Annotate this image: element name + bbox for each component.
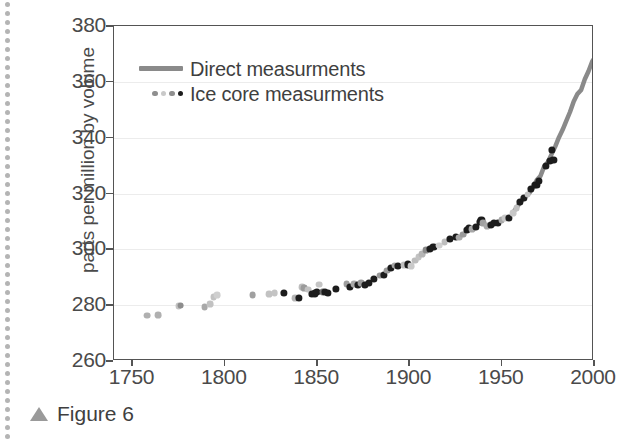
x-tick-label-1800: 1800 bbox=[179, 366, 269, 388]
y-tick-label-300: 300 bbox=[50, 237, 106, 258]
y-tick-label-360: 360 bbox=[50, 70, 106, 91]
triangle-up-icon bbox=[30, 407, 48, 421]
chart-legend: Direct measurments Ice core measurments bbox=[139, 56, 439, 106]
x-tick-mark-1950 bbox=[501, 360, 503, 366]
y-tick-mark-320 bbox=[106, 193, 113, 195]
legend-label-ice-core: Ice core measurments bbox=[190, 84, 384, 104]
figure-caption: Figure 6 bbox=[30, 403, 134, 424]
legend-dot-2 bbox=[169, 91, 175, 97]
x-tick-label-1850: 1850 bbox=[271, 366, 361, 388]
x-tick-mark-1900 bbox=[408, 360, 410, 366]
legend-label-direct: Direct measurments bbox=[190, 59, 365, 79]
y-tick-label-340: 340 bbox=[50, 126, 106, 147]
legend-dot-1 bbox=[161, 91, 167, 97]
direct-measurements-polyline bbox=[515, 59, 592, 211]
legend-item-ice-core: Ice core measurments bbox=[139, 81, 439, 106]
data-point bbox=[271, 289, 278, 296]
data-point bbox=[214, 292, 221, 299]
x-tick-label-1950: 1950 bbox=[456, 366, 546, 388]
data-point bbox=[155, 312, 162, 319]
legend-dot-0 bbox=[152, 91, 158, 97]
x-tick-mark-2000 bbox=[593, 360, 595, 366]
data-point bbox=[315, 281, 322, 288]
x-tick-label-1900: 1900 bbox=[363, 366, 453, 388]
data-point bbox=[207, 300, 214, 307]
x-tick-mark-1750 bbox=[131, 360, 133, 366]
y-tick-label-320: 320 bbox=[50, 182, 106, 203]
data-point bbox=[249, 292, 256, 299]
dots-swatch-icon bbox=[139, 91, 183, 97]
x-tick-label-1750: 1750 bbox=[86, 366, 176, 388]
legend-item-direct: Direct measurments bbox=[139, 56, 439, 81]
y-tick-mark-360 bbox=[106, 81, 113, 83]
x-tick-label-2000: 2000 bbox=[548, 366, 638, 388]
figure-6: parts per million by volume 260280300320… bbox=[0, 0, 641, 439]
figure-caption-text: Figure 6 bbox=[57, 403, 134, 424]
data-point bbox=[177, 302, 184, 309]
y-tick-mark-280 bbox=[106, 304, 113, 306]
y-tick-mark-340 bbox=[106, 137, 113, 139]
y-tick-mark-260 bbox=[106, 360, 113, 362]
x-tick-mark-1800 bbox=[224, 360, 226, 366]
plot-frame: Direct measurments Ice core measurments bbox=[113, 25, 593, 360]
x-tick-mark-1850 bbox=[316, 360, 318, 366]
y-tick-mark-300 bbox=[106, 248, 113, 250]
data-point bbox=[513, 205, 520, 212]
legend-dot-3 bbox=[178, 91, 184, 97]
data-point bbox=[144, 312, 151, 319]
y-tick-mark-380 bbox=[106, 25, 113, 27]
y-tick-label-380: 380 bbox=[50, 14, 106, 35]
y-tick-label-280: 280 bbox=[50, 293, 106, 314]
line-swatch-icon bbox=[139, 66, 183, 71]
